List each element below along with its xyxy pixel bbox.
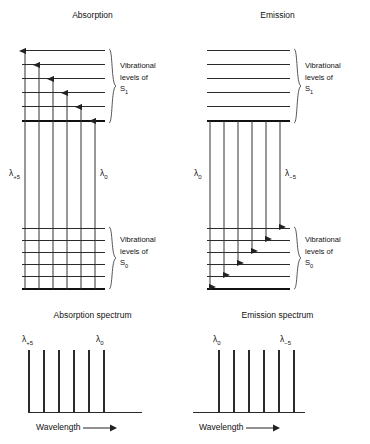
s0-label-line2: levels of <box>305 246 341 258</box>
emission-spectrum-annotation-right: λ−5 <box>280 334 291 346</box>
absorption-lambda-right-label: λ0 <box>100 168 108 180</box>
arrow-right-icon <box>83 424 117 432</box>
spectrum-peak <box>43 350 45 412</box>
spectrum-peak <box>28 350 30 412</box>
s0-brace <box>293 226 302 290</box>
emission-x-axis-label: Wavelength <box>199 422 280 432</box>
absorption-transitions <box>0 0 185 300</box>
emission-transitions <box>185 0 370 300</box>
spectrum-peak <box>263 350 265 412</box>
spectrum-peak <box>103 350 105 412</box>
s1-label-line2: levels of <box>305 72 341 84</box>
s1-label-line3: S1 <box>120 83 156 98</box>
s1-brace <box>108 48 117 124</box>
lambda-subscript: 0 <box>217 340 220 346</box>
absorption-spectrum-chart: Absorption spectrum λ+5 λ0 Wavelength <box>0 300 185 444</box>
x-axis-text: Wavelength <box>36 422 81 432</box>
s0-brace <box>108 226 117 290</box>
s0-label-line1: Vibrational <box>120 234 156 246</box>
emission-diagram: Emission λ0 λ−5 Vibrational level <box>185 0 370 300</box>
spectrum-peak <box>293 350 295 412</box>
s0-label-line1: Vibrational <box>305 234 341 246</box>
emission-lambda-right-label: λ−5 <box>285 168 296 180</box>
lambda-subscript: +5 <box>26 340 33 346</box>
emission-spectrum-chart: Emission spectrum λ0 λ−5 Wavelength <box>185 300 370 444</box>
s1-label-line3: S1 <box>305 83 341 98</box>
s1-label-line1: Vibrational <box>305 60 341 72</box>
s0-label-line3: S0 <box>120 257 156 272</box>
s0-label-line3: S0 <box>305 257 341 272</box>
emission-lambda-left-label: λ0 <box>194 168 202 180</box>
spectrum-baseline <box>193 412 305 413</box>
s1-bracket-label: Vibrational levels of S1 <box>305 60 341 98</box>
s0-bracket-label: Vibrational levels of S0 <box>305 234 341 272</box>
spectrum-peak <box>278 350 280 412</box>
lambda-subscript: 0 <box>104 174 107 180</box>
s0-label-line2: levels of <box>120 246 156 258</box>
absorption-diagram: Absorption λ+5 λ0 Vibrational lev <box>0 0 185 300</box>
absorption-spectrum-annotation-left: λ+5 <box>22 334 33 346</box>
lambda-subscript: 0 <box>100 340 103 346</box>
spectrum-peak <box>248 350 250 412</box>
lambda-subscript: −5 <box>289 174 296 180</box>
spectrum-peak <box>88 350 90 412</box>
s1-label-line1: Vibrational <box>120 60 156 72</box>
spectrum-peak <box>58 350 60 412</box>
arrow-right-icon <box>246 424 280 432</box>
s1-brace <box>293 48 302 124</box>
x-axis-text: Wavelength <box>199 422 244 432</box>
absorption-lambda-left-label: λ+5 <box>9 168 20 180</box>
lambda-subscript: +5 <box>13 174 20 180</box>
absorption-x-axis-label: Wavelength <box>36 422 117 432</box>
absorption-spectrum-title: Absorption spectrum <box>0 310 185 320</box>
s1-label-line2: levels of <box>120 72 156 84</box>
spectrum-peak <box>218 350 220 412</box>
absorption-spectrum-annotation-right: λ0 <box>96 334 104 346</box>
emission-spectrum-annotation-left: λ0 <box>213 334 221 346</box>
lambda-subscript: 0 <box>198 174 201 180</box>
spectrum-peak <box>233 350 235 412</box>
spectrum-baseline <box>28 412 142 413</box>
spectrum-peak <box>73 350 75 412</box>
emission-spectrum-title: Emission spectrum <box>185 310 370 320</box>
s1-bracket-label: Vibrational levels of S1 <box>120 60 156 98</box>
s0-bracket-label: Vibrational levels of S0 <box>120 234 156 272</box>
lambda-subscript: −5 <box>284 340 291 346</box>
